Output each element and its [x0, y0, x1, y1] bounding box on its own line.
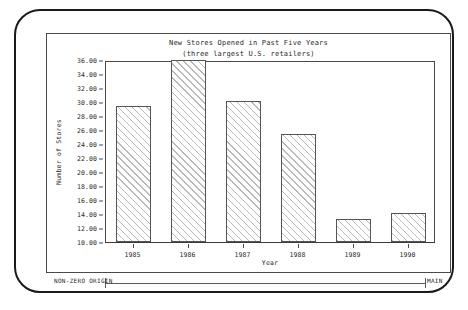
y-tick-label: 10.00	[77, 239, 97, 247]
y-tick-mark	[99, 131, 103, 132]
y-tick-mark	[99, 61, 103, 62]
y-tick-mark	[99, 117, 103, 118]
bar-1986	[171, 60, 205, 242]
x-tick-label: 1989	[344, 251, 360, 259]
x-tick-label: 1987	[234, 251, 250, 259]
monitor-bezel: New Stores Opened in Past Five Years (th…	[14, 9, 454, 293]
y-tick-mark	[99, 145, 103, 146]
y-tick-label: 22.00	[77, 155, 97, 163]
bars-layer	[106, 62, 434, 242]
y-tick-label: 24.00	[77, 141, 97, 149]
y-tick-label: 20.00	[77, 169, 97, 177]
x-tick-mark	[408, 244, 409, 248]
y-tick-mark	[99, 89, 103, 90]
non-zero-origin-label: NON-ZERO ORIGIN	[54, 277, 113, 284]
bar-1989	[336, 219, 370, 242]
y-tick-label: 32.00	[77, 85, 97, 93]
x-tick-mark	[133, 244, 134, 248]
y-tick-mark	[99, 103, 103, 104]
y-tick-label: 28.00	[77, 113, 97, 121]
y-tick-mark	[99, 215, 103, 216]
y-axis-tick-labels: 36.0034.0032.0030.0028.0026.0024.0022.00…	[47, 61, 103, 243]
annotation-callout: NON-ZERO ORIGIN MAIN	[32, 276, 460, 292]
annotation-line	[105, 283, 425, 284]
x-axis-title: Year	[105, 259, 435, 267]
y-tick-label: 30.00	[77, 99, 97, 107]
bar-1990	[391, 213, 425, 242]
y-tick-mark	[99, 75, 103, 76]
x-tick-mark	[188, 244, 189, 248]
y-tick-mark	[99, 159, 103, 160]
x-tick-label: 1988	[289, 251, 305, 259]
x-tick-label: 1985	[124, 251, 140, 259]
y-tick-mark	[99, 187, 103, 188]
x-tick-mark	[353, 244, 354, 248]
y-tick-label: 16.00	[77, 197, 97, 205]
chart-frame: New Stores Opened in Past Five Years (th…	[46, 33, 451, 273]
bar-1988	[281, 134, 315, 242]
y-tick-label: 34.00	[77, 71, 97, 79]
bar-1987	[226, 101, 260, 242]
y-tick-mark	[99, 243, 103, 244]
y-tick-label: 26.00	[77, 127, 97, 135]
y-tick-label: 14.00	[77, 211, 97, 219]
chart-title: New Stores Opened in Past Five Years	[47, 38, 450, 49]
plot-area	[105, 61, 435, 243]
annotation-right-cap	[425, 278, 426, 288]
chart-title-block: New Stores Opened in Past Five Years (th…	[47, 38, 450, 60]
y-tick-mark	[99, 173, 103, 174]
x-tick-mark	[298, 244, 299, 248]
bar-1985	[116, 106, 150, 242]
x-tick-label: 1986	[179, 251, 195, 259]
y-tick-mark	[99, 229, 103, 230]
chart-subtitle: (three largest U.S. retailers)	[47, 49, 450, 60]
x-tick-mark	[243, 244, 244, 248]
y-tick-label: 12.00	[77, 225, 97, 233]
x-tick-label: 1990	[399, 251, 415, 259]
y-tick-label: 36.00	[77, 57, 97, 65]
x-axis-tick-labels: 198519861987198819891990	[105, 244, 435, 260]
main-label: MAIN	[427, 277, 443, 284]
y-tick-mark	[99, 201, 103, 202]
slide-area: New Stores Opened in Past Five Years (th…	[46, 33, 456, 273]
y-tick-label: 18.00	[77, 183, 97, 191]
